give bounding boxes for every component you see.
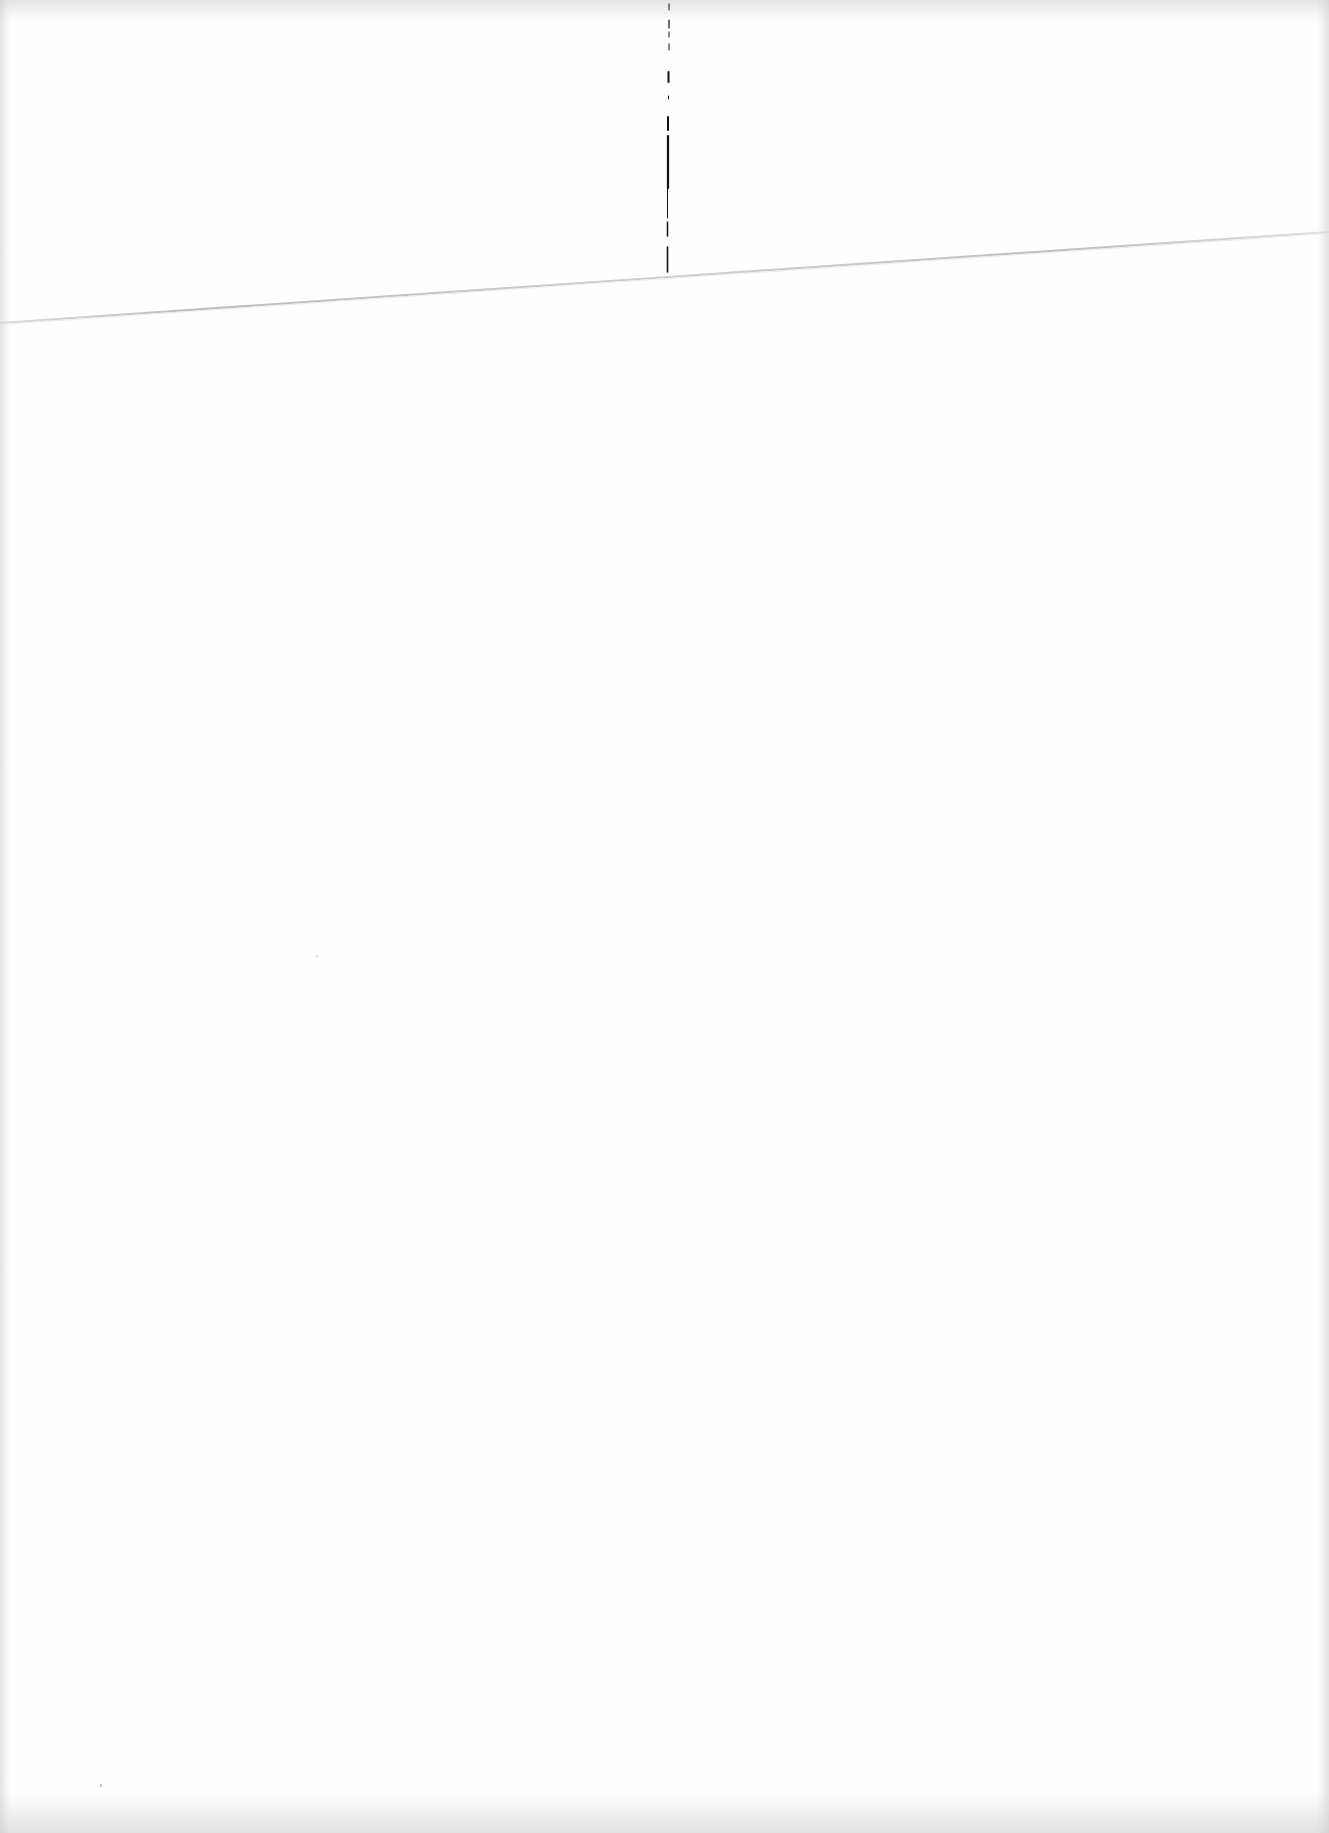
dust-speck: [316, 955, 318, 958]
ink-mark-line: [664, 0, 674, 280]
blank-scanned-page: [0, 0, 1329, 1833]
dust-speck: [100, 1784, 102, 1787]
scan-edge-shadow-bottom: [0, 1793, 1329, 1833]
